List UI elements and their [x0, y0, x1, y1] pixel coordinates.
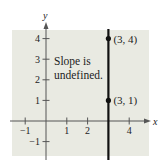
y-tick-label: 4 [35, 33, 40, 44]
x-axis-label: x [152, 116, 158, 127]
x-tick-label: 1 [64, 125, 69, 136]
slope-chart: −1124−11234 x y (3, 4)(3, 1) Slope isund… [0, 0, 160, 162]
y-tick-label: −1 [29, 136, 40, 147]
y-tick-label: 3 [35, 54, 40, 65]
y-tick-label: 2 [35, 74, 40, 85]
annotation-text: Slope is [54, 55, 91, 68]
x-tick-label: 4 [127, 125, 132, 136]
annotation-text: undefined. [54, 69, 103, 81]
data-point [106, 36, 111, 41]
y-axis-arrow-icon [44, 22, 49, 29]
point-label: (3, 4) [113, 33, 137, 46]
data-point [106, 98, 111, 103]
point-label: (3, 1) [113, 94, 137, 107]
x-tick-label: −1 [20, 125, 31, 136]
y-axis-label: y [42, 10, 48, 21]
x-tick-label: 2 [85, 125, 90, 136]
y-tick-label: 1 [35, 95, 40, 106]
